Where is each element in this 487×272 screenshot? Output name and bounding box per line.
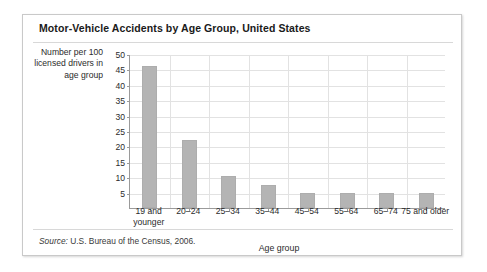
y-tick-mark (127, 147, 130, 148)
y-tick-mark (127, 163, 130, 164)
x-gridline (328, 55, 329, 208)
y-tick-label: 35 (99, 96, 125, 106)
bar (182, 140, 197, 208)
y-tick-label: 25 (99, 127, 125, 137)
title-divider (33, 42, 453, 43)
y-tick-mark (127, 55, 130, 56)
footer-divider (33, 229, 453, 230)
y-tick-label: 20 (99, 142, 125, 152)
y-tick-label: 30 (99, 112, 125, 122)
source-label: Source: (39, 236, 68, 246)
y-tick-mark (127, 132, 130, 133)
bar (142, 66, 157, 208)
x-tick-label: 75 and older (399, 206, 451, 217)
y-tick-mark (127, 117, 130, 118)
y-tick-label: 40 (99, 81, 125, 91)
y-tick-mark (127, 178, 130, 179)
x-gridline (288, 55, 289, 208)
y-axis-label: Number per 100 licensed drivers in age g… (29, 47, 103, 81)
plot-area (129, 55, 445, 209)
x-gridline (407, 55, 408, 208)
y-tick-label: 15 (99, 158, 125, 168)
page-root: Motor-Vehicle Accidents by Age Group, Un… (0, 0, 487, 272)
source-value: U.S. Bureau of the Census, 2006. (68, 236, 196, 246)
chart-title-bar: Motor-Vehicle Accidents by Age Group, Un… (23, 15, 461, 43)
y-tick-mark (127, 70, 130, 71)
y-tick-mark (127, 194, 130, 195)
source-note: Source: U.S. Bureau of the Census, 2006. (39, 236, 195, 246)
y-tick-label: 50 (99, 50, 125, 60)
x-gridline (209, 55, 210, 208)
plot-wrapper: 5101520253035404550 19 and younger20–242… (111, 49, 447, 209)
bar (261, 185, 276, 208)
x-gridline (367, 55, 368, 208)
y-tick-label: 45 (99, 65, 125, 75)
y-tick-mark (127, 101, 130, 102)
x-gridline (170, 55, 171, 208)
chart-card: Motor-Vehicle Accidents by Age Group, Un… (22, 14, 462, 256)
bar (221, 176, 236, 208)
y-tick-label: 10 (99, 173, 125, 183)
x-gridline (249, 55, 250, 208)
y-tick-label: 5 (99, 189, 125, 199)
y-tick-mark (127, 86, 130, 87)
page-title: Motor-Vehicle Accidents by Age Group, Un… (39, 22, 311, 34)
